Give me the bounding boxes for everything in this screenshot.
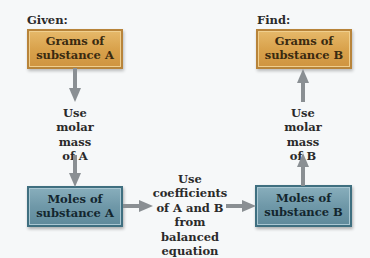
note-line: coefficients (153, 186, 228, 200)
box-line: substance B (265, 48, 344, 62)
note-line: Use (291, 106, 315, 120)
up-arrow-icon (297, 153, 309, 186)
right-arrow-icon (226, 200, 256, 212)
box-line: substance A (36, 48, 114, 62)
find-label: Find: (257, 13, 290, 27)
middle-conversion-note: Use coefficients of A and B from balance… (135, 172, 245, 258)
note-line: Use (178, 172, 202, 186)
box-line: Grams of (275, 34, 334, 48)
moles-of-substance-b-box: Moles ofsubstance B (255, 185, 352, 227)
box-line: substance B (264, 205, 343, 219)
moles-of-substance-a-box: Moles ofsubstance A (27, 186, 123, 227)
given-label: Given: (27, 13, 68, 27)
box-line: Moles of (276, 191, 331, 205)
down-arrow-icon (69, 155, 81, 187)
note-line: molar mass (56, 120, 94, 148)
box-line: Grams of (46, 34, 105, 48)
down-arrow-icon (69, 68, 81, 102)
note-line: from (175, 215, 206, 229)
note-line: of A and B (156, 201, 223, 215)
note-line: balanced equation (161, 230, 219, 258)
box-line: Moles of (47, 192, 102, 206)
grams-of-substance-b-box: Grams ofsubstance B (256, 29, 352, 69)
right-arrow-icon (123, 200, 153, 212)
note-line: Use (63, 106, 87, 120)
note-line: molar mass (284, 120, 322, 148)
box-line: substance A (36, 206, 114, 220)
up-arrow-icon (297, 69, 309, 102)
grams-of-substance-a-box: Grams ofsubstance A (27, 29, 123, 69)
